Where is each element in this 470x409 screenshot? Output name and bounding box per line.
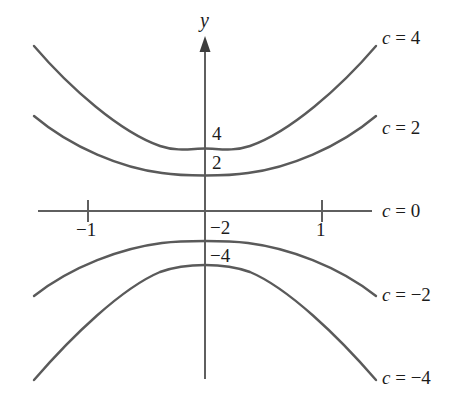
y-axis-arrow-icon — [200, 36, 211, 52]
curve-label-c-minus-4: c = −4 — [382, 368, 431, 387]
y-value-label-4: 4 — [212, 124, 222, 143]
curve-label-c-minus-2: c = −2 — [382, 285, 431, 304]
x-tick-label-neg1: −1 — [76, 220, 96, 239]
curve-label-c-minus-2-rest: = −2 — [390, 284, 430, 305]
curve-label-c-minus-4-rest: = −4 — [390, 367, 430, 388]
x-tick-label-pos1: 1 — [316, 220, 326, 239]
y-value-label-minus-2: −2 — [210, 218, 230, 237]
curve-label-c-2: c = 2 — [382, 118, 420, 137]
curve-label-c-0-rest: = 0 — [390, 200, 420, 221]
y-value-label-2: 2 — [212, 153, 222, 172]
level-curves-figure: y 4 2 −2 −4 −1 1 c = 4 c = 2 c = 0 c = −… — [0, 0, 470, 409]
y-value-label-minus-4: −4 — [210, 246, 230, 265]
curve-label-c-2-rest: = 2 — [390, 117, 420, 138]
curve-label-c-0: c = 0 — [382, 201, 420, 220]
curve-label-c-4: c = 4 — [382, 28, 420, 47]
y-axis-label: y — [200, 10, 209, 30]
curve-label-c-4-rest: = 4 — [390, 27, 420, 48]
